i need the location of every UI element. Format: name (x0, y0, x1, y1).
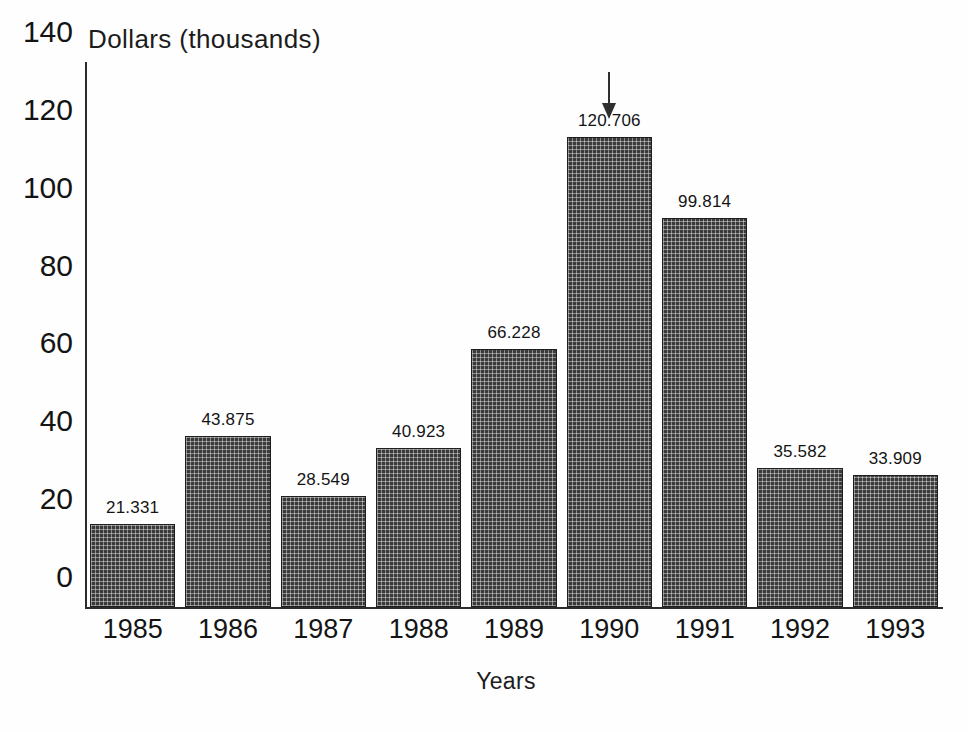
y-axis-tick-80: 80 (40, 251, 73, 281)
x-axis-tick-1989: 1989 (466, 614, 561, 645)
x-axis-tick-1987: 1987 (276, 614, 371, 645)
bar-series: 21.33143.87528.54940.92366.228120.70699.… (85, 62, 943, 607)
bar-group: 21.331 (90, 62, 175, 607)
y-axis-title: Dollars (thousands) (88, 24, 321, 55)
arrow-down-icon (600, 72, 618, 120)
bar-group: 33.909 (853, 62, 938, 607)
bar-1989[interactable] (471, 349, 556, 607)
x-axis-tick-1993: 1993 (848, 614, 943, 645)
bar-value-label-1993: 33.909 (869, 449, 922, 469)
y-axis-tick-40: 40 (40, 406, 73, 436)
bar-value-label-1987: 28.549 (297, 470, 350, 490)
x-axis-title-text: Years (476, 668, 535, 694)
y-axis-tick-20: 20 (40, 484, 73, 514)
x-axis-tick-1992: 1992 (752, 614, 847, 645)
x-axis-tick-1985: 1985 (85, 614, 180, 645)
bar-value-label-1985: 21.331 (106, 498, 159, 518)
bar-group: 120.706 (567, 62, 652, 607)
x-axis-tick-1986: 1986 (180, 614, 275, 645)
x-axis-tick-1990: 1990 (562, 614, 657, 645)
x-axis-line (85, 607, 943, 609)
bar-1988[interactable] (376, 448, 461, 607)
y-axis-tick-100: 100 (23, 173, 73, 203)
bar-1991[interactable] (662, 218, 747, 607)
bar-group: 28.549 (281, 62, 366, 607)
bar-value-label-1992: 35.582 (773, 442, 826, 462)
bar-group: 99.814 (662, 62, 747, 607)
bar-value-label-1988: 40.923 (392, 422, 445, 442)
bar-value-label-1991: 99.814 (678, 192, 731, 212)
bar-group: 35.582 (757, 62, 842, 607)
bar-chart-figure: Dollars (thousands) 020406080100120140 2… (0, 0, 968, 732)
y-axis-tick-0: 0 (56, 562, 73, 592)
x-axis-tick-1988: 1988 (371, 614, 466, 645)
bar-value-label-1986: 43.875 (201, 410, 254, 430)
y-axis-tick-120: 120 (23, 95, 73, 125)
bar-value-label-1989: 66.228 (487, 323, 540, 343)
y-axis-tick-60: 60 (40, 328, 73, 358)
y-axis-tick-140: 140 (23, 17, 73, 47)
bar-1992[interactable] (757, 468, 842, 607)
bar-1987[interactable] (281, 496, 366, 607)
bar-group: 66.228 (471, 62, 556, 607)
bar-group: 43.875 (185, 62, 270, 607)
bar-group: 40.923 (376, 62, 461, 607)
bar-1986[interactable] (185, 436, 270, 607)
bar-1985[interactable] (90, 524, 175, 607)
bar-1993[interactable] (853, 475, 938, 607)
x-axis-title: Years (0, 668, 968, 695)
x-axis-tick-1991: 1991 (657, 614, 752, 645)
bar-1990[interactable] (567, 137, 652, 607)
plot-area: 020406080100120140 21.33143.87528.54940.… (85, 62, 943, 607)
